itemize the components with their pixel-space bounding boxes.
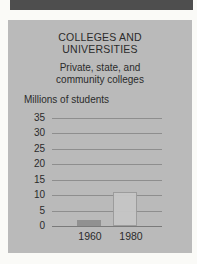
y-tick-label-5: 5: [39, 204, 45, 215]
y-tick-label-20: 20: [34, 158, 45, 169]
chart-card: COLLEGES AND UNIVERSITIES Private, state…: [8, 20, 192, 253]
cropped-image-strip: [10, 0, 193, 10]
y-tick-label-15: 15: [34, 174, 45, 185]
x-axis-line: 0: [52, 226, 162, 227]
bar-1980: [113, 192, 137, 226]
chart-title-line1: COLLEGES AND: [8, 32, 192, 44]
gridline-30: 30: [52, 133, 162, 134]
chart-subtitle-line2: community colleges: [8, 74, 192, 86]
screenshot-root: COLLEGES AND UNIVERSITIES Private, state…: [0, 0, 197, 264]
bar-1960: [77, 220, 101, 226]
gridline-15: 15: [52, 180, 162, 181]
gridline-35: 35: [52, 118, 162, 119]
chart-subtitle-line1: Private, state, and: [8, 62, 192, 74]
y-axis-unit-label: Millions of students: [24, 94, 109, 105]
gridline-5: 5: [52, 211, 162, 212]
chart-title-line2: UNIVERSITIES: [8, 44, 192, 56]
y-tick-label-10: 10: [34, 189, 45, 200]
y-tick-label-0: 0: [39, 220, 45, 231]
chart-area: 3530252015105019601980: [52, 118, 162, 226]
y-tick-label-25: 25: [34, 143, 45, 154]
y-tick-label-30: 30: [34, 127, 45, 138]
gridline-10: 10: [52, 195, 162, 196]
chart-subtitle: Private, state, and community colleges: [8, 62, 192, 85]
x-tick-label-1980: 1980: [119, 230, 142, 242]
y-tick-label-35: 35: [34, 112, 45, 123]
x-tick-label-1960: 1960: [78, 230, 101, 242]
chart-title: COLLEGES AND UNIVERSITIES: [8, 32, 192, 55]
gridline-25: 25: [52, 149, 162, 150]
gridline-20: 20: [52, 164, 162, 165]
